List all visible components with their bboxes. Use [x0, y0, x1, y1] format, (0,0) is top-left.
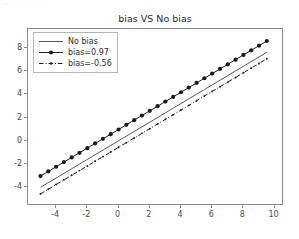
x-tick-label: 10	[269, 210, 279, 219]
legend[interactable]: No biasbias=0.97bias=-0.56	[33, 32, 118, 73]
series-marker	[47, 188, 49, 190]
series-marker	[155, 104, 159, 108]
series-marker	[85, 146, 89, 150]
x-tick-mark	[149, 205, 150, 208]
series-marker	[148, 109, 152, 113]
y-tick-label: -4	[2, 182, 22, 191]
series-marker	[125, 142, 127, 144]
series-marker	[234, 58, 238, 62]
series-marker	[202, 76, 206, 80]
series-marker	[187, 85, 191, 89]
series-marker	[242, 72, 244, 74]
figure-canvas: ····· ···· ···· ··· · bias VS No bias -4…	[0, 0, 299, 239]
y-tick-mark	[24, 186, 27, 187]
series-marker	[171, 95, 175, 99]
series-marker	[172, 114, 174, 116]
x-tick-mark	[86, 205, 87, 208]
legend-label: No bias	[68, 36, 98, 47]
x-tick-label: 2	[146, 210, 151, 219]
series-marker	[62, 160, 66, 164]
series-marker	[101, 137, 105, 141]
series-marker	[250, 67, 252, 69]
y-tick-label: -2	[2, 159, 22, 168]
series-marker	[219, 86, 221, 88]
series-marker	[38, 174, 42, 178]
y-tick-mark	[24, 47, 27, 48]
chart-title: bias VS No bias	[27, 13, 283, 24]
series-marker	[257, 44, 261, 48]
y-tick-mark	[24, 93, 27, 94]
series-marker	[94, 160, 96, 162]
y-tick-label: 8	[2, 42, 22, 51]
series-marker	[133, 137, 135, 139]
y-tick-mark	[24, 117, 27, 118]
legend-item[interactable]: No bias	[38, 36, 112, 47]
x-tick-mark	[274, 205, 275, 208]
x-tick-mark	[242, 205, 243, 208]
series-marker	[179, 90, 183, 94]
series-marker	[93, 141, 97, 145]
series-marker	[164, 118, 166, 120]
x-tick-label: -2	[82, 210, 90, 219]
series-marker	[109, 132, 113, 136]
legend-label: bias=0.97	[68, 47, 109, 58]
x-tick-mark	[55, 205, 56, 208]
x-tick-mark	[211, 205, 212, 208]
series-marker	[124, 123, 128, 127]
series-marker	[235, 76, 237, 78]
series-marker	[157, 123, 159, 125]
legend-item[interactable]: bias=0.97	[38, 47, 112, 58]
series-marker	[218, 67, 222, 71]
legend-line-sample	[38, 47, 64, 58]
series-marker	[188, 104, 190, 106]
series-marker	[140, 113, 144, 117]
legend-label: bias=-0.56	[68, 58, 112, 69]
x-tick-label: -4	[51, 210, 59, 219]
series-marker	[258, 63, 260, 65]
series-marker	[132, 118, 136, 122]
legend-item[interactable]: bias=-0.56	[38, 58, 112, 69]
x-tick-label: 6	[209, 210, 214, 219]
series-marker	[79, 170, 81, 172]
series-marker	[110, 151, 112, 153]
series-marker	[102, 156, 104, 158]
series-marker	[196, 100, 198, 102]
legend-line-sample	[38, 36, 64, 47]
y-tick-mark	[24, 70, 27, 71]
y-tick-mark	[24, 140, 27, 141]
series-marker	[54, 165, 58, 169]
series-marker	[77, 151, 81, 155]
series-marker	[163, 99, 167, 103]
series-marker	[71, 174, 73, 176]
y-tick-label: 2	[2, 112, 22, 121]
series-marker	[266, 58, 268, 60]
y-tick-label: 6	[2, 65, 22, 74]
x-tick-label: 0	[115, 210, 120, 219]
series-marker	[116, 127, 120, 131]
x-tick-mark	[118, 205, 119, 208]
legend-line-sample	[38, 58, 64, 69]
series-marker	[86, 165, 88, 167]
series-marker	[194, 81, 198, 85]
series-marker	[249, 48, 253, 52]
series-marker	[265, 39, 269, 43]
series-marker	[226, 62, 230, 66]
x-tick-mark	[180, 205, 181, 208]
series-marker	[63, 179, 65, 181]
series-marker	[40, 193, 42, 195]
series-marker	[241, 53, 245, 57]
series-marker	[227, 81, 229, 83]
y-tick-label: 4	[2, 89, 22, 98]
series-marker	[118, 146, 120, 148]
x-tick-label: 8	[240, 210, 245, 219]
series-marker	[203, 95, 205, 97]
series-marker	[70, 155, 74, 159]
series-marker	[180, 109, 182, 111]
y-tick-mark	[24, 163, 27, 164]
series-marker	[149, 128, 151, 130]
y-tick-label: 0	[2, 135, 22, 144]
cropped-top-text: ····· ···· ···· ··· ·	[0, 0, 299, 9]
series-marker	[55, 184, 57, 186]
x-tick-label: 4	[177, 210, 182, 219]
series-marker	[210, 72, 214, 76]
